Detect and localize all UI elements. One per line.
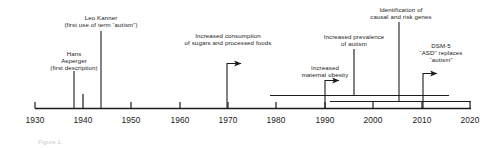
event-label-maternal-obesity: Increased maternal obesity: [302, 64, 349, 78]
arrow-dsm-5: [423, 74, 437, 109]
event-label-line: “autism”: [419, 56, 462, 63]
event-label-sugars-processed-foods: Increased consumption of sugars and proc…: [185, 32, 272, 46]
event-label-leo-kanner: Leo Kanner (first use of term “autism”): [64, 14, 137, 28]
event-label-line: of sugars and processed foods: [185, 39, 272, 46]
event-label-line: Increased prevalence: [324, 33, 385, 40]
axis-tick-label-1970: 1970: [208, 115, 248, 125]
event-label-line: Identification of: [370, 6, 432, 13]
axis-tick-label-2000: 2000: [353, 115, 393, 125]
event-label-autism-prevalence: Increased prevalence of autism: [324, 33, 385, 47]
event-label-line: maternal obesity: [302, 71, 349, 78]
event-label-line: Hans: [50, 50, 97, 57]
event-label-line: (first description): [50, 64, 97, 71]
event-label-line: causal and risk genes: [370, 13, 432, 20]
axis-tick-label-1960: 1960: [160, 115, 200, 125]
axis-tick-label-1980: 1980: [256, 115, 296, 125]
axis-tick-label-2020: 2020: [450, 115, 490, 125]
autism-timeline-figure: Hans Asperger (first description) Leo Ka…: [0, 0, 490, 148]
event-label-dsm-5: DSM-5 “ASD” replaces “autism”: [419, 42, 462, 64]
arrow-sugars-processed-foods: [227, 64, 241, 109]
event-label-causal-risk-genes: Identification of causal and risk genes: [370, 6, 432, 20]
axis-tick-label-1940: 1940: [63, 115, 103, 125]
event-label-hans-asperger: Hans Asperger (first description): [50, 50, 97, 72]
event-label-line: DSM-5: [419, 42, 462, 49]
event-label-line: of autism: [324, 40, 385, 47]
axis-tick-label-1990: 1990: [305, 115, 345, 125]
axis-tick-label-1930: 1930: [15, 115, 55, 125]
event-label-line: Increased consumption: [185, 32, 272, 39]
figure-footnote: Figure 1.: [38, 139, 63, 146]
event-label-line: (first use of term “autism”): [64, 21, 137, 28]
event-label-line: Leo Kanner: [64, 14, 137, 21]
axis-tick-label-1950: 1950: [111, 115, 151, 125]
axis-tick-label-2010: 2010: [402, 115, 442, 125]
event-label-line: “ASD” replaces: [419, 49, 462, 56]
event-label-line: Asperger: [50, 57, 97, 64]
event-label-line: Increased: [302, 64, 349, 71]
arrow-maternal-obesity: [325, 81, 339, 109]
